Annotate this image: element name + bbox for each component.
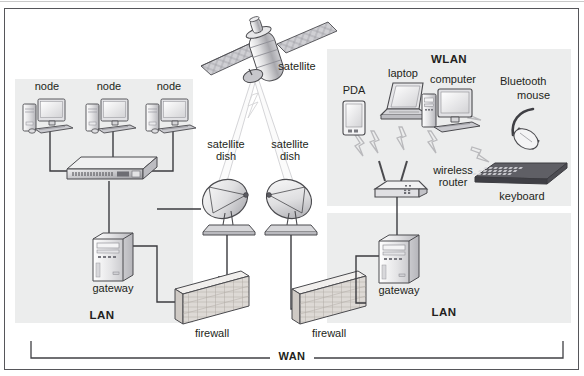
keyboard-icon: [472, 163, 567, 184]
label-computer: computer: [420, 74, 486, 86]
firewall-left-icon: [175, 271, 249, 324]
label-bluetooth: Bluetooth: [500, 76, 574, 88]
wireless-router-icon: [375, 161, 427, 197]
label-mouse: mouse: [517, 90, 574, 102]
label-node-2: node: [84, 81, 134, 93]
label-gateway-left: gateway: [83, 283, 143, 295]
satellite-dish-right-icon: [261, 173, 318, 235]
switch-icon: [67, 157, 157, 179]
firewall-right-icon: [292, 271, 366, 324]
label-firewall-right: firewall: [296, 328, 362, 340]
label-wireless-router: wireless router: [423, 165, 483, 189]
label-pda: PDA: [331, 85, 377, 97]
label-satellite-dish-right: satellite dish: [257, 139, 323, 163]
computer-icon: [422, 89, 480, 132]
label-wlan: WLAN: [409, 53, 489, 65]
node-3-icon: [146, 99, 196, 133]
label-satellite-dish-right-line2: dish: [257, 151, 323, 163]
label-node-1: node: [22, 81, 72, 93]
label-gateway-right: gateway: [369, 285, 429, 297]
satellite-icon: [201, 13, 337, 85]
label-node-3: node: [144, 81, 194, 93]
diagram-canvas: node node node gateway LAN satellite sat…: [0, 0, 584, 376]
label-wan: WAN: [270, 351, 314, 363]
page-top-rule: [0, 1, 584, 2]
node-2-icon: [86, 99, 136, 133]
node-1-icon: [23, 99, 73, 133]
satellite-beam-group: [218, 75, 294, 185]
satellite-dish-left-icon: [197, 173, 255, 235]
label-satellite-dish-left: satellite dish: [193, 139, 259, 163]
pda-icon: [343, 101, 365, 135]
label-satellite: satellite: [267, 61, 327, 73]
gateway-right-icon: [379, 235, 419, 283]
label-wireless-router-line2: router: [423, 177, 483, 189]
label-lan-left: LAN: [77, 309, 127, 321]
label-lan-right: LAN: [419, 306, 469, 318]
diagram-frame: node node node gateway LAN satellite sat…: [4, 8, 579, 370]
label-satellite-dish-left-line2: dish: [193, 151, 259, 163]
gateway-left-icon: [93, 233, 133, 281]
label-firewall-left: firewall: [179, 328, 245, 340]
label-bluetooth-mouse: Bluetooth mouse: [500, 76, 574, 102]
bluetooth-mouse-icon: [510, 109, 542, 154]
label-keyboard: keyboard: [489, 191, 555, 203]
